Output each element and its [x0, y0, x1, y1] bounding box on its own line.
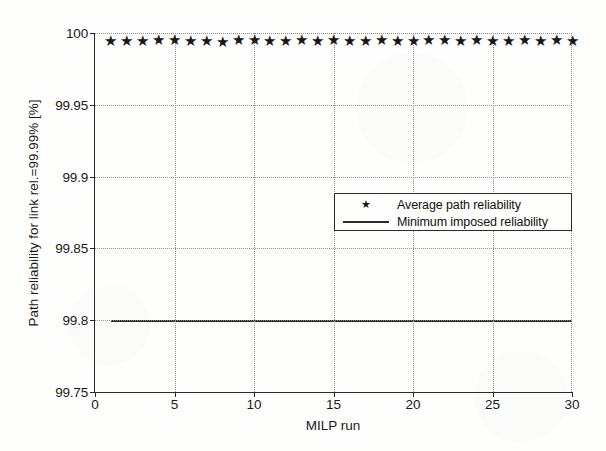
y-axis-tick [90, 33, 95, 34]
y-axis-tick [90, 105, 95, 106]
legend-entry-average-path-reliability: ★ Average path reliability [335, 196, 571, 213]
x-axis-tick-label: 15 [326, 397, 341, 412]
star-marker-icon: ★ [335, 196, 397, 213]
legend-box: ★ Average path reliability Minimum impos… [334, 193, 572, 231]
x-axis-tick-label: 10 [246, 397, 261, 412]
y-axis-tick [90, 248, 95, 249]
x-axis-tick-label: 30 [564, 397, 579, 412]
x-axis-tick-label: 20 [405, 397, 420, 412]
x-axis-title: MILP run [94, 418, 572, 433]
x-axis-tick-label: 5 [171, 397, 179, 412]
x-axis-tick-label: 0 [91, 397, 99, 412]
solid-line-icon [335, 213, 397, 230]
y-axis-title: Path reliability for link rel.=99.99% [%… [26, 33, 48, 393]
y-axis-tick-label: 99.85 [55, 241, 88, 256]
y-axis-tick [90, 320, 95, 321]
y-axis-tick-label: 99.9 [63, 169, 88, 184]
y-axis-tick-label: 99.8 [63, 313, 88, 328]
figure-canvas: 99.7599.899.8599.999.95100051015202530★★… [0, 0, 606, 451]
gridline-vertical [175, 33, 176, 392]
legend-entry-minimum-imposed-reliability: Minimum imposed reliability [335, 213, 571, 230]
y-axis-tick-label: 99.95 [55, 97, 88, 112]
y-axis-tick-label: 100 [66, 26, 88, 41]
y-axis-tick-label: 99.75 [55, 385, 88, 400]
y-axis-tick [90, 177, 95, 178]
legend-label-minimum-imposed-reliability: Minimum imposed reliability [397, 215, 548, 229]
gridline-vertical [254, 33, 255, 392]
x-axis-tick-label: 25 [485, 397, 500, 412]
legend-label-average-path-reliability: Average path reliability [397, 198, 521, 212]
